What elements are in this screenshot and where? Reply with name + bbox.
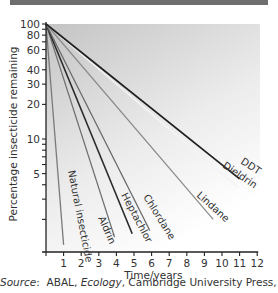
x-tick-label: 5 xyxy=(131,257,138,269)
x-tick-label: 9 xyxy=(201,257,208,269)
x-tick-label: 6 xyxy=(148,257,155,269)
source-citation: Source: ABAL, Ecology, Cambridge Univers… xyxy=(0,276,278,288)
y-axis-title: Percentage insecticide remaining xyxy=(7,47,19,222)
source-prefix: Source xyxy=(0,276,36,288)
source-work: Ecology xyxy=(81,276,122,288)
y-tick-label: 80 xyxy=(27,29,40,41)
x-tick-label: 3 xyxy=(95,257,102,269)
x-tick-label: 1 xyxy=(60,257,67,269)
x-tick-label: 7 xyxy=(166,257,173,269)
y-tick-label: 30 xyxy=(27,78,40,90)
y-tick-label: 20 xyxy=(27,98,40,110)
x-tick-label: 8 xyxy=(183,257,190,269)
x-tick-label: 12 xyxy=(251,257,264,269)
x-tick-label: 4 xyxy=(113,257,120,269)
y-tick-label: 60 xyxy=(27,44,40,56)
source-colon: : xyxy=(36,276,46,288)
insecticide-decay-chart: 1008060403020105123456789101112Time/year… xyxy=(0,0,278,293)
y-tick-label: 5 xyxy=(33,168,40,180)
source-rest: , Cambridge University Press, 1985 xyxy=(122,276,278,288)
y-tick-label: 40 xyxy=(27,64,40,76)
x-tick-label: 10 xyxy=(215,257,228,269)
x-tick-label: 11 xyxy=(233,257,246,269)
y-tick-label: 10 xyxy=(27,133,40,145)
source-author: ABAL, xyxy=(47,276,81,288)
